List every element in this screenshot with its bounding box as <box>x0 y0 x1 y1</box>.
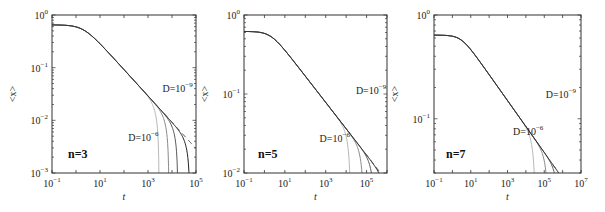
y-tick-label: 10−1 <box>31 61 49 74</box>
x-tick-label: 103 <box>501 176 515 189</box>
panel-n5: 10−110110310510010−110−2t<x>D=10−9D=10−6… <box>199 8 387 202</box>
x-axis-label: t <box>506 191 509 202</box>
curves <box>52 25 196 189</box>
y-tick-label: 10−2 <box>31 113 49 126</box>
x-axis-label: t <box>314 191 317 202</box>
annotation-label: D=10−6 <box>513 124 544 137</box>
x-tick-label: 105 <box>189 176 203 189</box>
x-tick-label: 101 <box>464 176 478 189</box>
y-axis-label: <x> <box>7 86 18 103</box>
x-axis-label: t <box>123 191 126 202</box>
annotation-label: D=10−6 <box>128 130 159 143</box>
panel-n7: 10−110110310510710010−1t<x>D=10−9D=10−6n… <box>389 8 588 204</box>
curve-d-10-9 <box>52 25 190 189</box>
panel-label: n=5 <box>258 147 278 161</box>
y-tick-label: 10−1 <box>413 112 431 125</box>
curve-d-10-7 <box>52 25 169 189</box>
y-tick-label: 100 <box>417 8 431 21</box>
curve-d-10-8 <box>244 31 375 196</box>
curves <box>244 31 387 196</box>
annotation-label: D=10−9 <box>546 87 577 100</box>
y-tick-label: 10−1 <box>223 87 241 100</box>
y-tick-label: 100 <box>35 8 49 21</box>
x-tick-label: 10−1 <box>235 176 253 189</box>
y-tick-label: 100 <box>227 8 241 21</box>
panel-label: n=3 <box>68 147 88 161</box>
panel-label: n=7 <box>446 147 466 161</box>
annotation-label: D=10−6 <box>320 131 351 144</box>
figure: 10−110110310510010−110−210−3t<x>D=10−9D=… <box>0 0 605 212</box>
x-tick-label: 10−1 <box>43 176 61 189</box>
x-tick-label: 101 <box>278 176 292 189</box>
x-tick-label: 105 <box>538 176 552 189</box>
curve-d-10-9 <box>244 31 387 196</box>
y-axis-label: <x> <box>389 86 400 103</box>
x-tick-label: 103 <box>319 176 333 189</box>
x-tick-label: 10−1 <box>425 176 443 189</box>
panel-n3: 10−110110310510010−110−210−3t<x>D=10−9D=… <box>7 8 203 202</box>
x-tick-label: 103 <box>141 176 155 189</box>
annotation-label: D=10−9 <box>162 81 193 94</box>
y-axis-label: <x> <box>199 86 210 103</box>
annotation-label: D=10−9 <box>356 83 387 96</box>
x-tick-label: 107 <box>574 176 588 189</box>
x-tick-label: 101 <box>93 176 107 189</box>
curve-d-10-7 <box>434 35 549 204</box>
x-tick-label: 105 <box>360 176 374 189</box>
